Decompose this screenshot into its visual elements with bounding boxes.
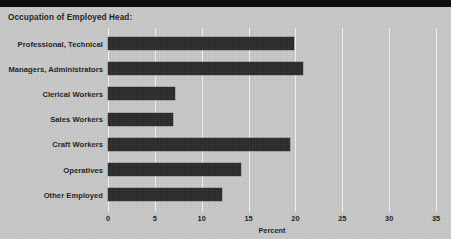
x-tick-label: 10 — [198, 214, 206, 223]
gridline-20 — [295, 28, 296, 212]
bar-row — [108, 188, 222, 201]
category-label: Other Employed — [0, 191, 103, 200]
x-axis-tick-labels: 05101520253035 — [108, 214, 436, 226]
x-tick-label: 35 — [432, 214, 440, 223]
category-axis-labels: Professional, TechnicalManagers, Adminis… — [0, 28, 103, 212]
bar-row — [108, 163, 241, 176]
bar — [108, 87, 175, 100]
category-label: Sales Workers — [0, 115, 103, 124]
x-tick-label: 0 — [106, 214, 110, 223]
bar-row — [108, 37, 294, 50]
x-tick-label: 20 — [291, 214, 299, 223]
bar — [108, 188, 222, 201]
x-tick-label: 5 — [153, 214, 157, 223]
gridline-25 — [342, 28, 343, 212]
bar-row — [108, 62, 303, 75]
plot-area — [108, 28, 436, 212]
bar — [108, 62, 303, 75]
bar — [108, 163, 241, 176]
x-axis-label: Percent — [108, 226, 436, 235]
gridline-10 — [202, 28, 203, 212]
bar — [108, 138, 290, 151]
x-tick-label: 25 — [338, 214, 346, 223]
scan-top-band — [0, 0, 451, 7]
bar-row — [108, 138, 290, 151]
chart-title: Occupation of Employed Head: — [8, 13, 132, 22]
category-label: Professional, Technical — [0, 40, 103, 49]
bar-row — [108, 87, 175, 100]
x-tick-label: 30 — [385, 214, 393, 223]
category-label: Clerical Workers — [0, 90, 103, 99]
gridline-35 — [436, 28, 437, 212]
category-label: Operatives — [0, 166, 103, 175]
bar — [108, 37, 294, 50]
category-label: Craft Workers — [0, 140, 103, 149]
bar-row — [108, 113, 173, 126]
x-tick-label: 15 — [244, 214, 252, 223]
bar-chart-figure: Occupation of Employed Head: Professiona… — [0, 0, 451, 239]
bar — [108, 113, 173, 126]
gridline-30 — [389, 28, 390, 212]
gridline-15 — [249, 28, 250, 212]
category-label: Managers, Administrators — [0, 65, 103, 74]
